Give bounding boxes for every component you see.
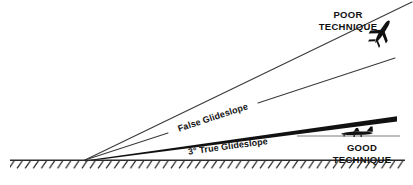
diagram-canvas: POOR TECHNIQUE GOOD TECHNIQUE False Glid… (0, 0, 413, 185)
poor-technique-label-line2: TECHNIQUE (319, 21, 378, 32)
glideslope-diagram: POOR TECHNIQUE GOOD TECHNIQUE False Glid… (0, 0, 413, 185)
false-glideslope-label: False Glideslope (177, 101, 250, 133)
good-technique-label-line1: GOOD (347, 142, 377, 153)
poor-technique-label-line1: POOR (333, 9, 362, 20)
aircraft-level-icon (341, 127, 373, 137)
good-technique-label-line2: TECHNIQUE (333, 154, 392, 165)
true-glideslope-label: 3° True Glideslope (187, 136, 268, 157)
